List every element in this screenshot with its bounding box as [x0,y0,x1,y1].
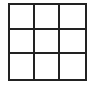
three-by-three-grid [8,3,87,81]
grid-cell-r3-c3 [60,54,85,79]
grid-cell-r1-c2 [35,5,60,30]
grid-cell-r3-c1 [10,54,35,79]
grid-cell-r1-c1 [10,5,35,30]
grid-cell-r2-c3 [60,30,85,55]
grid-cell-r3-c2 [35,54,60,79]
grid-cell-r2-c2 [35,30,60,55]
grid-cell-r1-c3 [60,5,85,30]
grid-cell-r2-c1 [10,30,35,55]
diagram-canvas [0,0,89,85]
